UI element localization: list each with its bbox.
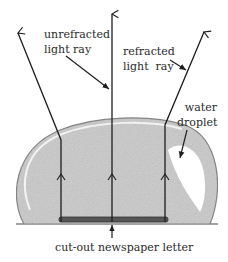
label-water-line2: droplet — [177, 116, 217, 129]
label-refracted-line2: light ray — [123, 60, 175, 73]
label-water-line1: water — [177, 101, 217, 114]
label-water-droplet: water droplet — [177, 101, 217, 129]
diagram-canvas — [0, 0, 228, 262]
label-newspaper-letter: cut-out newspaper letter — [55, 241, 193, 254]
label-unrefracted-line2: light ray — [44, 43, 110, 56]
label-unrefracted-line1: unrefracted — [44, 28, 110, 41]
water-droplet — [16, 118, 217, 224]
label-refracted-line1: refracted — [123, 45, 175, 58]
label-refracted: refracted light ray — [123, 45, 175, 73]
label-unrefracted: unrefracted light ray — [44, 28, 110, 56]
newspaper-letter — [59, 217, 168, 222]
unrefracted-pointer-arrow — [66, 56, 109, 89]
